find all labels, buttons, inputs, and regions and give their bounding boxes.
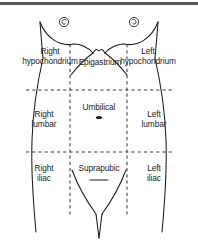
label-umbilical-text: Umbilical [64,103,134,113]
nipple-markers [59,17,138,26]
right-nipple-icon [59,17,68,26]
label-left-hypochondrium: Left hypochondrium [100,47,196,66]
navel-icon [96,116,102,119]
perineal-right [99,214,102,238]
label-left-lumbar-line2: lumbar [128,120,180,130]
left-inguinal-line [72,170,96,214]
perineal-left [96,214,99,238]
label-left-lumbar: Left lumbar [128,110,180,129]
label-right-iliac-line2: iliac [18,174,70,184]
label-left-iliac-line2: iliac [128,174,180,184]
label-suprapubic: Suprapubic [63,164,135,174]
label-right-lumbar-line2: lumbar [18,120,70,130]
left-breast-curve [40,22,74,45]
label-left-hypochondrium-line2: hypochondrium [100,57,196,67]
label-umbilical: Umbilical [64,103,134,113]
left-body-contour [32,58,43,232]
label-suprapubic-text: Suprapubic [63,164,135,174]
right-breast-curve [124,22,158,45]
label-left-iliac: Left iliac [128,164,180,183]
left-nipple-icon [129,17,138,26]
region-grid [26,44,172,215]
right-body-contour [155,58,166,232]
label-right-lumbar: Right lumbar [18,110,70,129]
abdominal-regions-figure: Right hypochondrium Epigastrium Left hyp… [0,0,198,242]
right-inguinal-line [102,170,126,214]
